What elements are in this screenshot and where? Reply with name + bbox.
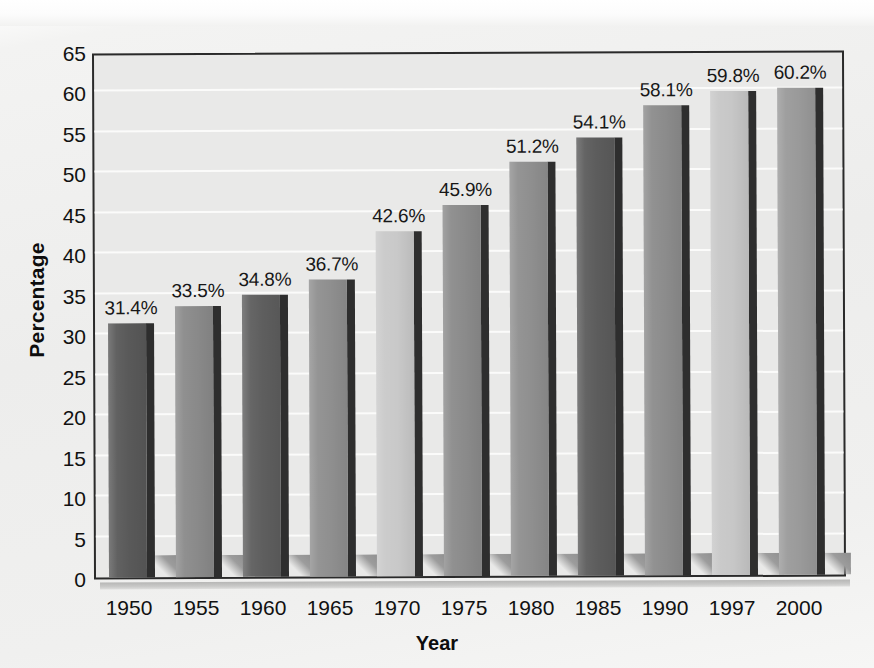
bar-front-face bbox=[643, 105, 683, 575]
bar-front-face bbox=[710, 91, 750, 575]
bar-sheen bbox=[309, 279, 348, 576]
y-axis-tick-0: 0 bbox=[40, 568, 86, 592]
bar-1970[interactable] bbox=[376, 231, 423, 576]
bar-side-face bbox=[414, 231, 423, 576]
bar-1960[interactable] bbox=[242, 295, 289, 577]
x-axis-title: Year bbox=[0, 632, 874, 655]
bar-1997[interactable] bbox=[710, 91, 758, 575]
plot-area: 31.4%33.5%34.8%36.7%42.6%45.9%51.2%54.1%… bbox=[92, 51, 846, 580]
x-axis-tick-labels: 1950195519601965197019751980198519901997… bbox=[0, 596, 874, 622]
y-axis-tick-55: 55 bbox=[40, 123, 86, 147]
y-axis-tick-50: 50 bbox=[40, 163, 86, 187]
y-axis-tick-10: 10 bbox=[40, 487, 86, 511]
bar-value-label-1985: 54.1% bbox=[554, 112, 644, 134]
y-axis-tick-60: 60 bbox=[40, 82, 86, 106]
paper-top-edge bbox=[0, 0, 874, 26]
bar-front-face bbox=[309, 279, 348, 576]
bar-side-face bbox=[146, 323, 155, 577]
bar-sheen bbox=[576, 138, 616, 576]
bar-sheen bbox=[710, 91, 750, 575]
bar-drop-shadow bbox=[825, 553, 851, 575]
y-axis-tick-5: 5 bbox=[40, 528, 86, 552]
bar-1990[interactable] bbox=[643, 105, 691, 575]
bar-front-face bbox=[108, 323, 147, 577]
bar-front-face bbox=[509, 161, 549, 575]
bar-value-label-1975: 45.9% bbox=[420, 178, 510, 200]
bars-layer: 31.4%33.5%34.8%36.7%42.6%45.9%51.2%54.1%… bbox=[94, 53, 844, 578]
bar-front-face bbox=[376, 231, 415, 576]
y-axis-tick-65: 65 bbox=[40, 42, 86, 66]
bar-side-face bbox=[481, 205, 490, 576]
bar-front-face bbox=[576, 138, 616, 576]
bar-1965[interactable] bbox=[309, 279, 356, 576]
bar-chart-figure: 05101520253035404550556065 Percentage 31… bbox=[0, 0, 874, 668]
bar-value-label-2000: 60.2% bbox=[755, 61, 845, 83]
bar-front-face bbox=[443, 205, 482, 577]
bar-front-face bbox=[242, 295, 281, 577]
bar-front-face bbox=[777, 88, 817, 575]
bar-1950[interactable] bbox=[108, 323, 155, 577]
bar-sheen bbox=[108, 323, 147, 577]
bar-side-face bbox=[614, 138, 624, 576]
bar-side-face bbox=[347, 279, 356, 576]
bar-value-label-1965: 36.7% bbox=[287, 253, 377, 275]
y-axis-title: Percentage bbox=[25, 205, 49, 395]
bar-sheen bbox=[443, 205, 482, 577]
bar-value-label-1980: 51.2% bbox=[487, 135, 577, 157]
y-axis-tick-20: 20 bbox=[40, 406, 86, 430]
bar-sheen bbox=[175, 306, 214, 577]
bar-sheen bbox=[376, 231, 415, 576]
bar-2000[interactable] bbox=[777, 87, 825, 574]
bar-side-face bbox=[547, 161, 557, 575]
x-axis-tick-2000: 2000 bbox=[759, 596, 839, 620]
bar-side-face bbox=[280, 295, 289, 577]
bar-1975[interactable] bbox=[443, 205, 490, 577]
bar-1985[interactable] bbox=[576, 138, 624, 576]
baseline-shadow bbox=[100, 580, 850, 590]
bar-1955[interactable] bbox=[175, 306, 222, 577]
bar-value-label-1970: 42.6% bbox=[354, 205, 444, 227]
y-axis-tick-15: 15 bbox=[40, 447, 86, 471]
bar-sheen bbox=[242, 295, 281, 577]
bar-side-face bbox=[213, 306, 222, 577]
bar-1980[interactable] bbox=[509, 161, 557, 575]
bar-sheen bbox=[509, 161, 549, 575]
bar-sheen bbox=[643, 105, 683, 575]
bar-sheen bbox=[777, 88, 817, 575]
bar-front-face bbox=[175, 306, 214, 577]
